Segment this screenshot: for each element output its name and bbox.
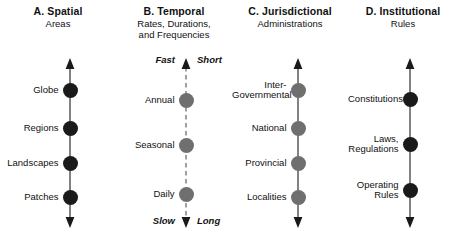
scale-node-label: Laws,Regulations	[348, 134, 399, 155]
axis-caption-long: Long	[197, 215, 220, 226]
column-title: B. Temporal	[116, 6, 232, 18]
axis-caption-short: Short	[197, 54, 222, 65]
scale-node-label: Landscapes	[0, 158, 59, 169]
scale-dimensions-diagram: A. SpatialAreasGlobeRegionsLandscapesPat…	[0, 0, 458, 247]
scale-node-dot	[63, 156, 78, 171]
scale-node-label: Globe	[0, 85, 59, 96]
scale-node-dot	[403, 92, 418, 107]
scale-node-label-line: Globe	[0, 85, 59, 96]
scale-node-label: Regions	[0, 123, 59, 134]
column-title: D. Institutional	[348, 6, 458, 18]
scale-node-dot	[291, 121, 306, 136]
scale-node-dot	[63, 83, 78, 98]
column-subtitle-line: Administrations	[232, 18, 348, 30]
scale-node-label-line: Landscapes	[0, 158, 59, 169]
scale-node-label: OperatingRules	[348, 180, 399, 201]
scale-node-label-line: Localities	[232, 192, 287, 203]
column-heading-spatial: A. SpatialAreas	[0, 6, 116, 29]
column-title: A. Spatial	[0, 6, 116, 18]
scale-column-jurisdictional: C. JurisdictionalAdministrationsInter-Go…	[232, 0, 348, 247]
scale-column-temporal: B. TemporalRates, Durations,and Frequenc…	[116, 0, 232, 247]
scale-node-label: Localities	[232, 192, 287, 203]
scale-node-label-line: Constitutions	[348, 94, 399, 105]
scale-node-label: Daily	[116, 189, 175, 200]
scale-node-dot	[403, 183, 418, 198]
column-subtitle-line: Areas	[0, 18, 116, 30]
scale-node-label-line: Regions	[0, 123, 59, 134]
scale-node-dot	[291, 156, 306, 171]
scale-node-label-line: Provincial	[232, 158, 287, 169]
scale-node-label: Seasonal	[116, 140, 175, 151]
scale-node-label-line: Rules	[348, 190, 399, 201]
scale-node-label-line: Regulations	[348, 144, 399, 155]
scale-node-dot	[179, 93, 194, 108]
scale-node-dot	[179, 138, 194, 153]
scale-node-label-line: Daily	[116, 189, 175, 200]
column-title: C. Jurisdictional	[232, 6, 348, 18]
axis-caption-fast: Fast	[116, 54, 175, 65]
scale-node-label-line: National	[232, 123, 287, 134]
scale-node-label: Inter-Governmental	[232, 80, 287, 101]
scale-node-label-line: Patches	[0, 192, 59, 203]
scale-node-dot	[291, 83, 306, 98]
scale-node-dot	[403, 137, 418, 152]
scale-node-label-line: Governmental	[232, 90, 287, 101]
column-subtitle-line: Rates, Durations,	[116, 18, 232, 30]
column-heading-jurisdictional: C. JurisdictionalAdministrations	[232, 6, 348, 29]
scale-node-label: National	[232, 123, 287, 134]
column-heading-temporal: B. TemporalRates, Durations,and Frequenc…	[116, 6, 232, 41]
scale-node-label-line: Seasonal	[116, 140, 175, 151]
scale-node-dot	[291, 190, 306, 205]
scale-column-spatial: A. SpatialAreasGlobeRegionsLandscapesPat…	[0, 0, 116, 247]
scale-node-label: Constitutions	[348, 94, 399, 105]
column-subtitle-line: and Frequencies	[116, 29, 232, 41]
scale-node-label: Patches	[0, 192, 59, 203]
scale-node-label: Provincial	[232, 158, 287, 169]
scale-node-label-line: Annual	[116, 95, 175, 106]
scale-node-dot	[63, 121, 78, 136]
scale-node-dot	[179, 187, 194, 202]
column-subtitle-line: Rules	[348, 18, 458, 30]
axis-caption-slow: Slow	[116, 215, 175, 226]
scale-node-label: Annual	[116, 95, 175, 106]
scale-node-dot	[63, 190, 78, 205]
column-heading-institutional: D. InstitutionalRules	[348, 6, 458, 29]
scale-column-institutional: D. InstitutionalRulesConstitutionsLaws,R…	[348, 0, 458, 247]
